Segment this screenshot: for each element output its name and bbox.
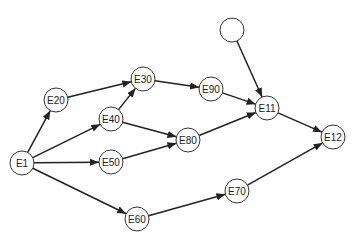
node-e80: E80 (176, 128, 200, 152)
node-e1: E1 (10, 151, 34, 175)
node-label: E1 (16, 158, 29, 169)
edge-e1-to-e40 (33, 124, 100, 157)
node-label: E80 (179, 135, 197, 146)
edge-e70-to-e12 (247, 143, 322, 185)
node-label: E60 (128, 214, 146, 225)
edge-e80-to-e11 (199, 113, 256, 136)
edge-e1-to-e60 (33, 168, 126, 213)
node-label: E12 (324, 132, 342, 143)
edge-e50-to-e80 (123, 143, 177, 158)
node-e40: E40 (99, 107, 123, 131)
node-label: E30 (134, 74, 152, 85)
node-e11: E11 (255, 96, 279, 120)
node-e30: E30 (131, 67, 155, 91)
node-label: E11 (258, 103, 275, 114)
node-e12: E12 (321, 125, 345, 149)
node-label: E50 (102, 157, 120, 168)
edge-e1-to-e20 (28, 111, 51, 153)
edge-e90-to-e11 (222, 93, 255, 104)
edges-layer (28, 41, 323, 216)
node-label: E70 (228, 186, 246, 197)
network-diagram: E1E20E30E40E50E60E70E80E90E11E12 (0, 0, 358, 242)
node-e70: E70 (225, 179, 249, 203)
edge-e30-to-e90 (155, 81, 199, 88)
node-e60: E60 (125, 207, 149, 231)
nodes-layer: E1E20E30E40E50E60E70E80E90E11E12 (10, 18, 345, 231)
node-label: E40 (102, 114, 120, 125)
edge-e40-to-e30 (118, 88, 135, 109)
node-blank (220, 18, 244, 42)
edge-e11-to-e12 (278, 113, 322, 132)
edge-e60-to-e70 (149, 194, 226, 216)
node-label: E20 (47, 95, 65, 106)
node-e20: E20 (44, 88, 68, 112)
node-e90: E90 (199, 77, 223, 101)
edge-blank-to-e11 (237, 41, 262, 97)
node-e50: E50 (99, 150, 123, 174)
edge-e1-to-e50 (34, 162, 99, 163)
edge-e20-to-e30 (68, 82, 132, 97)
edge-e40-to-e80 (123, 122, 177, 137)
node-label: E90 (202, 84, 220, 95)
node-circle (220, 18, 244, 42)
